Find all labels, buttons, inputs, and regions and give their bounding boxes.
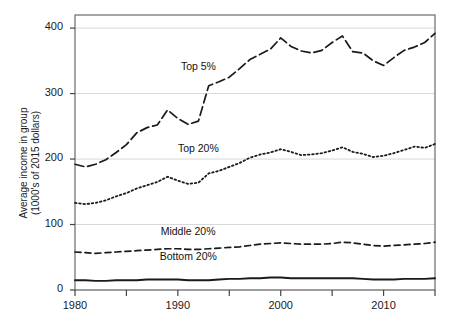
chart-plot-area (0, 0, 456, 326)
x-axis-tick-label: 1980 (55, 299, 95, 311)
y-axis-tick-label: 200 (29, 151, 63, 163)
y-axis-tick-label: 0 (29, 282, 63, 294)
series-line-top-5 (75, 33, 435, 167)
y-axis-tick-label: 400 (29, 20, 63, 32)
series-label-top-20: Top 20% (178, 142, 219, 154)
x-axis-tick-label: 2000 (261, 299, 301, 311)
y-axis-tick-label: 300 (29, 86, 63, 98)
x-axis-tick-label: 2010 (364, 299, 404, 311)
income-distribution-chart: Average income in group (1000's of 2015 … (0, 0, 456, 326)
series-line-bottom-20 (75, 278, 435, 281)
series-label-bottom-20: Bottom 20% (160, 250, 217, 262)
series-label-middle-20: Middle 20% (161, 225, 216, 237)
series-line-middle-20 (75, 242, 435, 253)
x-axis-tick-label: 1990 (158, 299, 198, 311)
series-label-top-5: Top 5% (181, 60, 216, 72)
series-line-top-20 (75, 144, 435, 204)
y-axis-tick-label: 100 (29, 217, 63, 229)
